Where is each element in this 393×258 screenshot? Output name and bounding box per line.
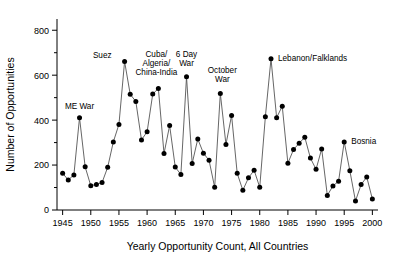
data-point-marker (150, 92, 155, 97)
x-tick-label: 2000 (362, 218, 382, 228)
x-tick-label: 1945 (53, 218, 73, 228)
data-point-marker (370, 196, 375, 201)
data-point-marker (105, 165, 110, 170)
x-tick-label: 1975 (222, 218, 242, 228)
data-point-marker (291, 147, 296, 152)
data-point-marker (257, 185, 262, 190)
data-point-marker (308, 156, 313, 161)
x-tick-label: 1965 (165, 218, 185, 228)
annotation-label: October (208, 66, 237, 75)
data-point-marker (207, 158, 212, 163)
data-point-marker (111, 139, 116, 144)
data-point-marker (156, 86, 161, 91)
chart-axes: 0200400600800194519501955196019651970197… (34, 19, 382, 228)
data-point-marker (145, 129, 150, 134)
y-tick-label: 200 (34, 160, 49, 170)
annotation-label: Bosnia (351, 137, 376, 146)
y-tick-label: 400 (34, 116, 49, 126)
data-point-marker (285, 161, 290, 166)
data-point-marker (342, 139, 347, 144)
data-point-marker (319, 146, 324, 151)
data-point-marker (190, 161, 195, 166)
data-point-marker (94, 182, 99, 187)
chart-figure: 0200400600800194519501955196019651970197… (0, 0, 393, 258)
data-point-marker (325, 193, 330, 198)
data-point-marker (280, 104, 285, 109)
data-point-marker (162, 151, 167, 156)
data-point-marker (263, 114, 268, 119)
data-point-marker (235, 171, 240, 176)
line-chart: 0200400600800194519501955196019651970197… (0, 0, 393, 258)
data-point-marker (201, 151, 206, 156)
x-tick-label: 1970 (193, 218, 213, 228)
data-point-marker (336, 179, 341, 184)
data-point-marker (71, 172, 76, 177)
annotation-label: Algeria/ (142, 59, 170, 68)
data-point-marker (128, 92, 133, 97)
data-point-marker (252, 168, 257, 173)
annotation-label: War (179, 59, 194, 68)
data-point-marker (302, 135, 307, 140)
data-point-marker (139, 137, 144, 142)
data-point-marker (347, 168, 352, 173)
data-point-marker (314, 167, 319, 172)
data-point-marker (83, 164, 88, 169)
data-point-marker (246, 175, 251, 180)
y-tick-label: 0 (44, 205, 49, 215)
annotation-label: Cuba/ (145, 50, 168, 59)
y-tick-label: 800 (34, 26, 49, 36)
data-point-marker (133, 99, 138, 104)
x-tick-label: 1995 (334, 218, 354, 228)
y-axis-title: Number of Opportunities (4, 57, 16, 171)
x-tick-label: 1985 (278, 218, 298, 228)
x-tick-label: 1990 (306, 218, 326, 228)
data-point-marker (184, 74, 189, 79)
data-point-marker (218, 91, 223, 96)
data-point-marker (60, 171, 65, 176)
x-tick-label: 1960 (137, 218, 157, 228)
data-point-marker (359, 182, 364, 187)
data-point-marker (212, 185, 217, 190)
data-point-marker (269, 56, 274, 61)
data-point-marker (274, 115, 279, 120)
annotation-label: 6 Day (176, 50, 198, 59)
x-axis-title: Yearly Opportunity Count, All Countries (127, 240, 309, 252)
annotation-label: Lebanon/Falklands (278, 54, 347, 63)
data-point-marker (353, 199, 358, 204)
annotation-label: Suez (93, 51, 112, 60)
data-point-marker (240, 188, 245, 193)
data-point-marker (364, 174, 369, 179)
x-tick-label: 1980 (250, 218, 270, 228)
annotation-label: War (215, 75, 230, 84)
x-tick-label: 1950 (81, 218, 101, 228)
x-tick-label: 1955 (109, 218, 129, 228)
annotation-label: ME War (65, 102, 95, 111)
data-point-marker (229, 113, 234, 118)
data-point-marker (223, 142, 228, 147)
data-point-marker (173, 165, 178, 170)
data-point-marker (167, 123, 172, 128)
data-point-marker (88, 183, 93, 188)
annotation-label: China-India (135, 68, 177, 77)
data-point-marker (100, 180, 105, 185)
data-point-marker (122, 59, 127, 64)
data-point-marker (66, 177, 71, 182)
data-point-marker (178, 172, 183, 177)
data-point-marker (330, 183, 335, 188)
data-point-marker (195, 136, 200, 141)
data-point-marker (297, 141, 302, 146)
data-point-marker (116, 122, 121, 127)
data-point-marker (77, 115, 82, 120)
y-tick-label: 600 (34, 71, 49, 81)
